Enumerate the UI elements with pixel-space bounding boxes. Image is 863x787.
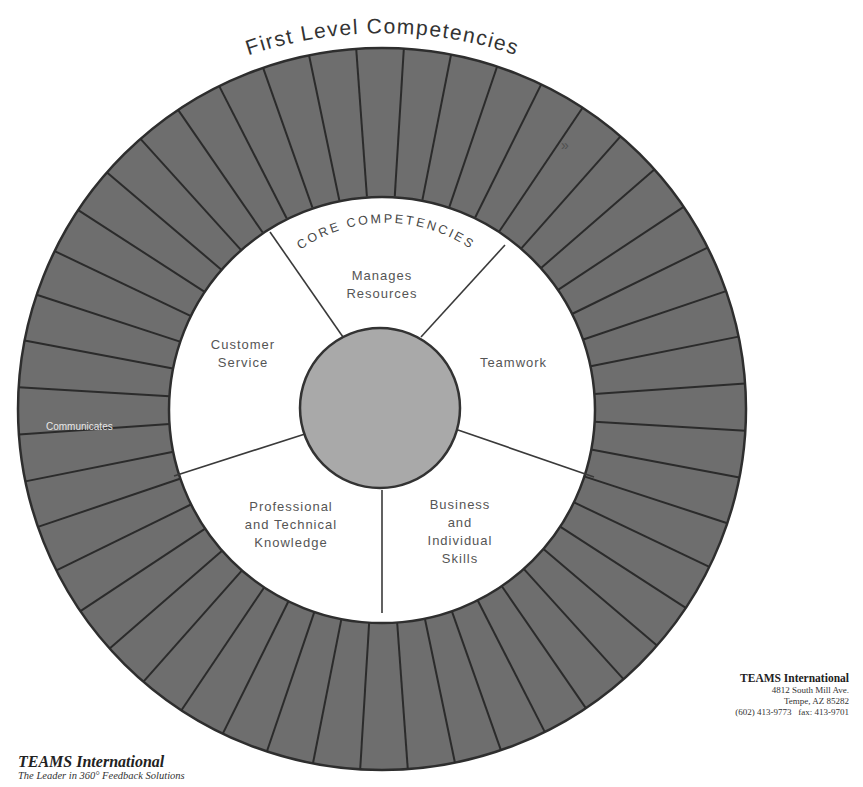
competency-wheel-diagram: First Level Competencies CORE COMPETENCI… bbox=[0, 0, 863, 787]
label-line: Service bbox=[188, 354, 298, 372]
label-line: Individual bbox=[405, 532, 515, 550]
address-line-2: Tempe, AZ 85282 bbox=[735, 696, 849, 707]
label-line: Knowledge bbox=[226, 534, 356, 552]
contact-block: TEAMS International 4812 South Mill Ave.… bbox=[735, 671, 849, 718]
brand-tagline: The Leader in 360° Feedback Solutions bbox=[18, 770, 185, 782]
contact-brand: TEAMS International bbox=[735, 671, 849, 685]
brand-block: TEAMS International The Leader in 360° F… bbox=[18, 754, 185, 782]
label-line: Manages bbox=[322, 267, 442, 285]
core-segment-business-individual-skills: Business and Individual Skills bbox=[405, 496, 515, 568]
label-line: Skills bbox=[405, 550, 515, 568]
phone-fax: (602) 413-9773 fax: 413-9701 bbox=[735, 707, 849, 718]
address-line-1: 4812 South Mill Ave. bbox=[735, 685, 849, 696]
stray-mark: » bbox=[561, 137, 569, 153]
outer-segment-label-communicates: Communicates bbox=[46, 421, 113, 432]
label-line: Professional bbox=[226, 498, 356, 516]
label-line: Resources bbox=[322, 285, 442, 303]
brand-name: TEAMS International bbox=[18, 754, 185, 770]
label-line: Business bbox=[405, 496, 515, 514]
core-segment-manages-resources: Manages Resources bbox=[322, 267, 442, 303]
label-line: and bbox=[405, 514, 515, 532]
label-line: Teamwork bbox=[466, 354, 561, 372]
core-segment-professional-technical-knowledge: Professional and Technical Knowledge bbox=[226, 498, 356, 552]
label-line: Customer bbox=[188, 336, 298, 354]
core-segment-teamwork: Teamwork bbox=[466, 354, 561, 372]
label-line: and Technical bbox=[226, 516, 356, 534]
core-segment-customer-service: Customer Service bbox=[188, 336, 298, 372]
center-circle bbox=[300, 328, 460, 488]
